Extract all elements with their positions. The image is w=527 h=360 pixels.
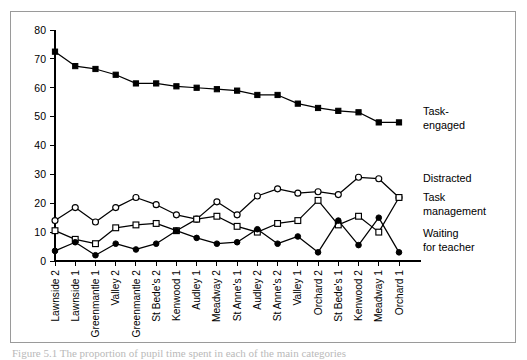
data-point-marker <box>234 239 240 245</box>
data-point-marker <box>295 101 300 106</box>
chart-legend: Task-engagedDistractedTaskmanagementWait… <box>423 105 486 253</box>
legend-label-line1: Task- <box>423 105 449 117</box>
data-point-marker <box>234 223 240 229</box>
x-tick-label: Lawnside 1 <box>70 270 81 322</box>
data-point-marker <box>315 250 321 256</box>
data-point-marker <box>275 221 281 227</box>
data-point-marker <box>52 218 58 224</box>
data-point-marker <box>214 199 220 205</box>
data-point-marker <box>113 225 119 231</box>
data-point-marker <box>174 228 180 234</box>
series-line <box>55 177 399 222</box>
data-point-marker <box>133 81 138 86</box>
x-tick-label: Greenmantle 1 <box>90 270 101 338</box>
data-point-marker <box>133 194 139 200</box>
x-tick-label: Kenwood 1 <box>171 270 182 321</box>
legend-label-line1: Distracted <box>423 172 472 184</box>
data-point-marker <box>92 219 98 225</box>
y-tick-label: 60 <box>34 82 46 94</box>
data-point-marker <box>153 221 159 227</box>
data-point-marker <box>376 120 381 125</box>
x-tick-label: Meadway 2 <box>211 270 222 322</box>
data-point-marker <box>336 108 341 113</box>
data-point-marker <box>396 195 402 201</box>
x-tick-label: St Bede's 2 <box>151 270 162 322</box>
x-tick-label: Lawnside 2 <box>50 270 61 322</box>
data-point-marker <box>356 110 361 115</box>
x-tick-label: Orchard 2 <box>313 270 324 316</box>
x-tick-label: St Bede's 1 <box>333 270 344 322</box>
data-point-marker <box>275 92 280 97</box>
data-point-marker <box>315 105 320 110</box>
data-point-marker <box>194 216 200 222</box>
data-point-marker <box>133 247 139 253</box>
data-point-marker <box>235 88 240 93</box>
figure-root: 01020304050607080Lawnside 2Lawnside 1Gre… <box>0 0 527 360</box>
x-tick-label: Greenmantle 2 <box>131 270 142 338</box>
data-point-marker <box>153 241 159 247</box>
data-point-marker <box>376 229 382 235</box>
data-point-marker <box>214 87 219 92</box>
data-point-marker <box>113 205 119 211</box>
legend-label-line1: Waiting <box>423 227 459 239</box>
series-line <box>55 218 399 256</box>
data-point-marker <box>154 81 159 86</box>
data-point-marker <box>376 176 382 182</box>
data-point-marker <box>295 218 301 224</box>
data-point-marker <box>214 241 220 247</box>
data-point-marker <box>52 248 58 254</box>
line-chart: 01020304050607080Lawnside 2Lawnside 1Gre… <box>11 12 515 342</box>
data-point-marker <box>93 241 99 247</box>
data-point-marker <box>133 222 139 228</box>
data-point-marker <box>376 215 382 221</box>
data-point-marker <box>93 66 98 71</box>
data-point-marker <box>356 242 362 248</box>
y-tick-label: 50 <box>34 110 46 122</box>
y-tick-label: 80 <box>34 24 46 36</box>
y-tick-label: 40 <box>34 139 46 151</box>
y-tick-label: 70 <box>34 53 46 65</box>
data-point-marker <box>73 63 78 68</box>
data-point-marker <box>52 228 58 234</box>
legend-label-line2: for teacher <box>423 241 475 253</box>
x-tick-label: Orchard 1 <box>394 270 405 316</box>
x-tick-label: St Anne's 2 <box>272 270 283 322</box>
series-distracted <box>52 174 402 225</box>
legend-item-task-engaged: Task-engaged <box>423 105 465 131</box>
x-tick-label: Valley 1 <box>292 270 303 306</box>
x-tick-label: Valley 2 <box>110 270 121 306</box>
series-line <box>55 197 399 243</box>
data-point-marker <box>72 239 78 245</box>
y-tick-label: 20 <box>34 197 46 209</box>
legend-item-distracted: Distracted <box>423 172 472 184</box>
data-point-marker <box>174 84 179 89</box>
chart-frame: 01020304050607080Lawnside 2Lawnside 1Gre… <box>10 11 516 343</box>
data-point-marker <box>52 49 57 54</box>
series-task-management <box>52 195 402 247</box>
data-point-marker <box>315 189 321 195</box>
data-point-marker <box>396 120 401 125</box>
figure-caption: Figure 5.1 The proportion of pupil time … <box>12 347 512 360</box>
data-point-marker <box>255 226 261 232</box>
data-point-marker <box>153 202 159 208</box>
x-axis-ticks: Lawnside 2Lawnside 1Greenmantle 1Valley … <box>50 261 405 337</box>
data-point-marker <box>214 213 220 219</box>
y-tick-label: 0 <box>40 255 46 267</box>
data-point-marker <box>93 252 99 258</box>
x-tick-label: Audley 1 <box>191 270 202 310</box>
data-point-marker <box>254 193 260 199</box>
data-point-marker <box>113 241 119 247</box>
figure-caption-strip: Figure 5.1 The proportion of pupil time … <box>12 347 512 360</box>
x-tick-label: Meadway 1 <box>373 270 384 322</box>
data-point-marker <box>255 92 260 97</box>
series-task-engaged <box>52 49 401 125</box>
data-point-marker <box>275 241 281 247</box>
legend-label-line1: Task <box>423 191 446 203</box>
legend-label-line2: engaged <box>423 119 465 131</box>
x-tick-label: Audley 2 <box>252 270 263 310</box>
series-line <box>55 52 399 123</box>
data-point-marker <box>194 235 200 241</box>
data-point-marker <box>335 218 341 224</box>
x-tick-label: St Anne's 1 <box>232 270 243 322</box>
y-tick-label: 30 <box>34 168 46 180</box>
